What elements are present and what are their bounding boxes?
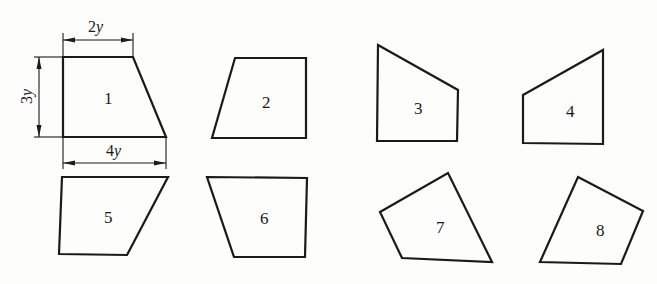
shape-number-label: 2 bbox=[262, 93, 271, 112]
shape-outline bbox=[63, 57, 166, 137]
dim-label-2y: 2y bbox=[88, 18, 104, 36]
shape-number-label: 7 bbox=[436, 218, 445, 237]
shape-number-label: 1 bbox=[104, 89, 113, 108]
arrowhead-left-icon bbox=[63, 38, 75, 43]
diagram-canvas: 2y 3y 4y 12345678 bbox=[0, 0, 657, 284]
shape-number-label: 8 bbox=[596, 221, 605, 240]
shape-number-label: 5 bbox=[104, 208, 113, 227]
quadrilateral-2: 2 bbox=[212, 58, 306, 138]
arrowhead-left-icon bbox=[63, 161, 75, 166]
quadrilateral-7: 7 bbox=[380, 173, 492, 262]
quadrilateral-8: 8 bbox=[540, 177, 643, 264]
shape-outline bbox=[212, 58, 306, 138]
dimension-annotations: 2y 3y 4y bbox=[18, 18, 166, 169]
dim-label-3y: 3y bbox=[18, 88, 36, 104]
quadrilateral-1: 1 bbox=[63, 57, 166, 137]
shape-number-label: 4 bbox=[566, 102, 575, 121]
shapes-group: 12345678 bbox=[59, 45, 643, 264]
arrowhead-down-icon bbox=[37, 125, 42, 137]
quadrilateral-3: 3 bbox=[377, 45, 458, 141]
shape-outline bbox=[377, 45, 458, 141]
shape-number-label: 6 bbox=[260, 209, 269, 228]
shape-outline bbox=[540, 177, 643, 264]
quadrilateral-4: 4 bbox=[523, 50, 603, 144]
dim-label-4y: 4y bbox=[106, 142, 122, 160]
shape-outline bbox=[59, 177, 168, 255]
arrowhead-right-icon bbox=[121, 38, 133, 43]
quadrilateral-6: 6 bbox=[207, 177, 307, 257]
arrowhead-up-icon bbox=[37, 57, 42, 69]
quadrilateral-5: 5 bbox=[59, 177, 168, 255]
quadrilaterals-figure: 2y 3y 4y 12345678 bbox=[0, 0, 657, 284]
shape-outline bbox=[523, 50, 603, 144]
arrowhead-right-icon bbox=[154, 161, 166, 166]
shape-outline bbox=[207, 177, 307, 257]
shape-number-label: 3 bbox=[414, 99, 423, 118]
